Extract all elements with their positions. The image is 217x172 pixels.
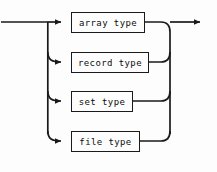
branch-to-file-type: [48, 131, 61, 141]
node-record-type[interactable]: record type: [71, 52, 149, 73]
branch-to-set-type: [48, 91, 61, 101]
merge-from-set-type: [133, 91, 170, 101]
merge-from-file-type: [140, 131, 170, 141]
merge-from-array-type: [145, 22, 170, 32]
node-array-type-label: array type: [79, 19, 137, 28]
node-file-type-label: file type: [79, 138, 131, 147]
railroad-diagram-canvas: array type record type set type file typ…: [0, 0, 217, 172]
node-set-type[interactable]: set type: [71, 91, 133, 112]
node-record-type-label: record type: [78, 59, 142, 68]
node-file-type[interactable]: file type: [71, 131, 140, 152]
branch-to-record-type: [48, 52, 61, 62]
node-set-type-label: set type: [79, 98, 126, 107]
node-array-type[interactable]: array type: [71, 12, 145, 33]
merge-from-record-type: [149, 52, 170, 62]
